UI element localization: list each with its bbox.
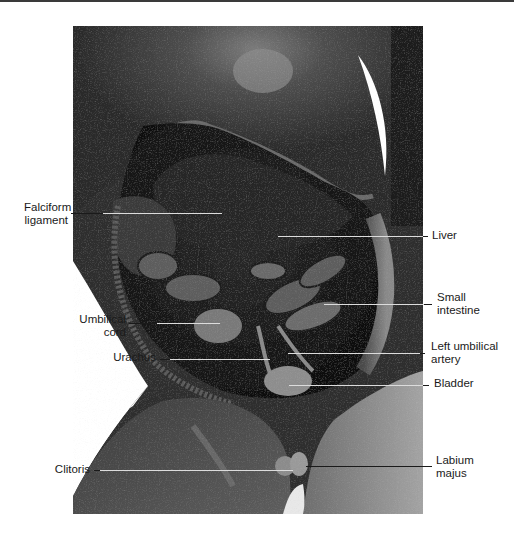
leader-labium-majus — [306, 466, 432, 467]
label-urachus: Urachus — [108, 351, 156, 364]
leader-clitoris — [94, 470, 293, 471]
label-line: Liver — [432, 229, 457, 242]
label-line: Small — [437, 291, 480, 304]
leader-urachus — [160, 359, 270, 360]
label-line: Umbilical — [74, 313, 126, 326]
leader-falciform-ligament — [71, 213, 222, 214]
label-line: artery — [431, 353, 498, 366]
label-line: intestine — [437, 304, 480, 317]
anatomy-photograph — [73, 26, 423, 514]
leader-umbilical-cord — [129, 323, 220, 324]
label-liver: Liver — [432, 229, 457, 242]
leader-left-umbilical-artery — [288, 353, 425, 354]
label-small-intestine: Small intestine — [437, 291, 480, 317]
label-falciform-ligament: Falciform ligament — [24, 201, 68, 227]
label-line: Urachus — [108, 351, 156, 364]
leader-liver — [278, 236, 428, 237]
leader-bladder — [289, 385, 429, 386]
label-bladder: Bladder — [434, 377, 474, 390]
leader-small-intestine — [324, 304, 432, 305]
label-labium-majus: Labium majus — [436, 454, 474, 480]
label-line: majus — [436, 467, 474, 480]
label-line: cord — [74, 326, 126, 339]
label-line: Falciform — [24, 201, 68, 214]
label-line: Clitoris — [52, 463, 90, 476]
label-line: ligament — [24, 214, 68, 227]
label-line: Left umbilical — [431, 340, 498, 353]
label-left-umbilical-artery: Left umbilical artery — [431, 340, 498, 366]
label-line: Labium — [436, 454, 474, 467]
label-clitoris: Clitoris — [52, 463, 90, 476]
top-border — [0, 0, 514, 2]
label-line: Bladder — [434, 377, 474, 390]
label-umbilical-cord: Umbilical cord — [74, 313, 126, 339]
